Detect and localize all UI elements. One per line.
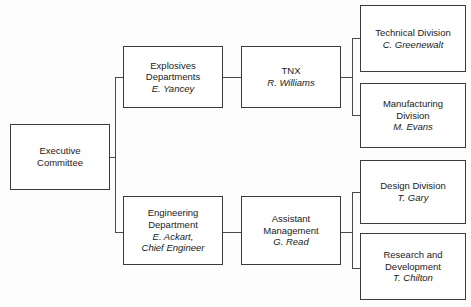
node-person-name: G. Read xyxy=(273,236,308,248)
node-title-line: Research and xyxy=(383,249,442,261)
node-title-line: Development xyxy=(385,261,441,273)
node-engineering-department[interactable]: EngineeringDepartmentE. Ackart,Chief Eng… xyxy=(123,196,223,265)
node-title-line: Engineering xyxy=(148,207,199,219)
org-chart: ExecutiveCommitteeExplosivesDepartmentsE… xyxy=(0,0,471,307)
node-title-line: Departments xyxy=(146,71,200,83)
node-title-line: Executive xyxy=(39,145,80,157)
node-title-line: Design Division xyxy=(380,180,445,192)
connector-exec-trunk xyxy=(115,77,116,233)
node-title-line: TNX xyxy=(282,65,301,77)
connector-asst-trunk xyxy=(352,192,353,269)
connector-explos-to-tnx xyxy=(223,77,241,78)
node-person-name: R. Williams xyxy=(267,77,314,89)
node-tnx[interactable]: TNXR. Williams xyxy=(241,46,341,108)
node-person-name: T. Chilton xyxy=(393,272,433,284)
node-person-name: C. Greenewalt xyxy=(383,39,444,51)
connector-tnx-trunk xyxy=(352,38,353,116)
node-title-line: Assistant xyxy=(272,213,311,225)
node-title-line: Technical Division xyxy=(375,27,451,39)
node-person-name: Chief Engineer xyxy=(142,242,205,254)
node-person-name: E. Ackart, xyxy=(153,231,194,243)
node-technical-division[interactable]: Technical DivisionC. Greenewalt xyxy=(360,5,466,72)
node-research-and-development[interactable]: Research andDevelopmentT. Chilton xyxy=(360,233,466,300)
node-person-name: E. Yancey xyxy=(152,83,194,95)
node-manufacturing-division[interactable]: ManufacturingDivisionM. Evans xyxy=(360,83,466,148)
node-explosives-departments[interactable]: ExplosivesDepartmentsE. Yancey xyxy=(123,46,223,108)
node-design-division[interactable]: Design DivisionT. Gary xyxy=(360,160,466,224)
node-title-line: Committee xyxy=(37,157,83,169)
node-person-name: T. Gary xyxy=(398,192,429,204)
node-title-line: Manufacturing xyxy=(383,98,443,110)
node-title-line: Department xyxy=(148,219,198,231)
node-title-line: Management xyxy=(263,225,318,237)
node-assistant-management[interactable]: AssistantManagementG. Read xyxy=(241,196,341,265)
node-title-line: Explosives xyxy=(150,60,195,72)
connector-engin-to-asst xyxy=(223,232,241,233)
node-executive-committee[interactable]: ExecutiveCommittee xyxy=(10,124,110,190)
node-title-line: Division xyxy=(396,110,429,122)
node-person-name: M. Evans xyxy=(393,121,433,133)
